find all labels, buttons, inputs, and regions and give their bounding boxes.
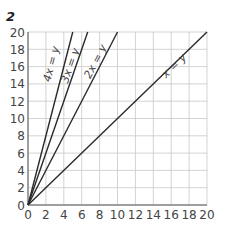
line-chart: 02468101214161820024681012141618204x = y…	[0, 0, 225, 233]
series-label: x = y	[158, 51, 189, 82]
x-tick-label: 0	[24, 208, 32, 222]
y-tick-label: 8	[17, 129, 25, 143]
y-tick-label: 6	[17, 147, 25, 161]
x-tick-label: 12	[128, 208, 143, 222]
y-tick-label: 14	[10, 77, 25, 91]
series-label: 3x = y	[58, 46, 82, 85]
x-tick-label: 2	[42, 208, 50, 222]
y-tick-label: 0	[17, 199, 25, 213]
x-tick-label: 10	[110, 208, 125, 222]
series-label: 2x = y	[81, 42, 109, 81]
x-tick-label: 18	[181, 208, 196, 222]
x-tick-label: 6	[78, 208, 86, 222]
y-tick-label: 16	[10, 60, 25, 74]
y-tick-label: 18	[10, 43, 25, 57]
x-tick-label: 14	[146, 208, 161, 222]
y-tick-label: 10	[10, 112, 25, 126]
x-tick-label: 8	[96, 208, 104, 222]
x-tick-label: 16	[164, 208, 179, 222]
x-tick-label: 20	[199, 208, 214, 222]
y-tick-label: 20	[10, 26, 25, 40]
y-tick-label: 12	[10, 95, 25, 109]
x-tick-label: 4	[60, 208, 68, 222]
y-tick-label: 2	[17, 181, 25, 195]
y-tick-label: 4	[17, 164, 25, 178]
